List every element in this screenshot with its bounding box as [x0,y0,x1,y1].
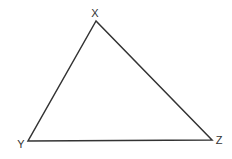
triangle-diagram: X Y Z [0,0,232,159]
vertex-label-z: Z [216,134,223,146]
vertex-label-x: X [91,7,99,19]
triangle-svg: X Y Z [0,0,232,159]
triangle-xyz [28,21,212,141]
vertex-label-y: Y [17,138,25,150]
